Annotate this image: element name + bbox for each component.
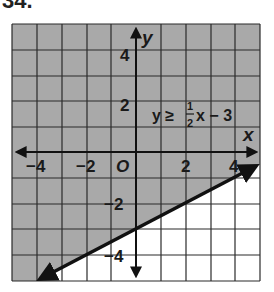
x-tick-label: 4 <box>229 157 239 176</box>
svg-text:1: 1 <box>187 100 193 112</box>
coordinate-graph: y x O −4 −2 2 4 4 2 −2 −4 y ≥ 1 2 x − 3 <box>0 0 274 292</box>
y-tick-label: 2 <box>120 96 129 115</box>
y-tick-label: −4 <box>104 247 124 266</box>
svg-text:2: 2 <box>187 117 193 129</box>
y-tick-label: −2 <box>104 195 123 214</box>
origin-label: O <box>116 157 129 176</box>
svg-text:y ≥: y ≥ <box>152 107 174 124</box>
y-axis-label: y <box>141 27 154 48</box>
x-tick-label: −2 <box>76 157 95 176</box>
y-tick-label: 4 <box>120 46 130 65</box>
svg-text:x − 3: x − 3 <box>196 107 232 124</box>
x-tick-label: −4 <box>26 157 46 176</box>
x-axis-label: x <box>242 124 255 145</box>
x-tick-label: 2 <box>181 157 190 176</box>
